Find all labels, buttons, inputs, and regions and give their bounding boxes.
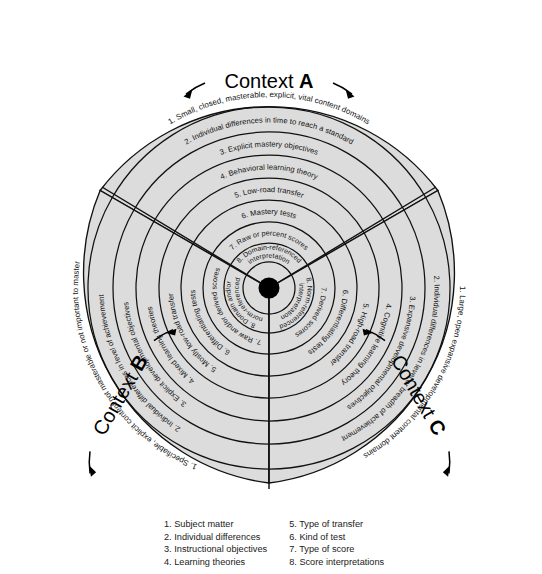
- arrowhead-left: [184, 89, 193, 99]
- diagram-root: 1. Small, closed, masterable, explicit, …: [0, 0, 542, 574]
- legend-item: 7. Type of score: [289, 543, 384, 556]
- legend-column-left: 1. Subject matter 2. Individual differen…: [164, 518, 267, 568]
- arrowhead-left: [84, 465, 97, 478]
- center-hub-dot: [259, 278, 280, 299]
- legend-item: 8. Score interpretations: [289, 556, 384, 569]
- arrowhead-right: [346, 89, 355, 99]
- legend-item: 3. Instructional objectives: [164, 543, 267, 556]
- legend-item: 6. Kind of test: [289, 531, 384, 544]
- three-context-ring-diagram: 1. Small, closed, masterable, explicit, …: [0, 0, 542, 574]
- legend: 1. Subject matter 2. Individual differen…: [164, 518, 464, 568]
- legend-item: 4. Learning theories: [164, 556, 267, 569]
- legend-item: 5. Type of transfer: [289, 518, 384, 531]
- context-heading-text: Context A: [225, 70, 314, 92]
- legend-column-right: 5. Type of transfer 6. Kind of test 7. T…: [289, 518, 384, 568]
- legend-item: 2. Individual differences: [164, 531, 267, 544]
- arrowhead-right: [442, 465, 455, 478]
- legend-item: 1. Subject matter: [164, 518, 267, 531]
